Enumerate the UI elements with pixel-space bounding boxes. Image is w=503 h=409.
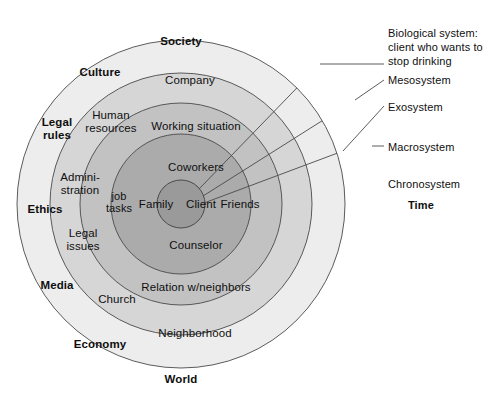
ring-label-economy: Economy [74,338,126,351]
ring-label-family: Family [139,198,173,211]
ring-label-counselor: Counselor [169,239,222,252]
ring-label-relation-neighbors: Relation w/neighbors [141,281,250,294]
side-label-mesosystem: Mesosystem [388,73,451,87]
ring-label-ethics: Ethics [27,203,62,216]
ring-label-job-tasks: job tasks [106,190,132,215]
ring-label-legal-rules: Legal rules [42,116,73,142]
ring-label-working-situation: Working situation [151,120,241,133]
side-label-time: Time [408,198,434,212]
ring-label-human-resources: Human resources [85,109,136,135]
ring-label-coworkers: Coworkers [168,161,224,174]
side-label-exosystem: Exosystem [388,100,443,114]
ring-label-church: Church [98,293,136,306]
ring-label-culture: Culture [80,66,121,79]
ecological-systems-diagram: Society World Culture Legal rules Ethics… [0,0,503,409]
leader-line-mesosystem [355,80,384,100]
ring-label-media: Media [40,279,73,292]
ring-label-legal-issues: Legal issues [66,227,99,253]
side-label-biological-system: Biological system: client who wants to s… [388,26,483,68]
ring-label-neighborhood: Neighborhood [158,327,231,340]
ring-label-society: Society [160,35,202,48]
side-label-chronosystem: Chronosystem [388,177,460,191]
side-label-macrosystem: Macrosystem [388,140,455,154]
core-label-client: Client [186,198,216,211]
ring-label-administration: Admini- stration [60,171,100,197]
ring-label-company: Company [165,74,215,87]
ring-label-friends: Friends [220,198,259,211]
ring-label-world: World [165,373,198,386]
leader-line-exosystem [343,106,384,151]
